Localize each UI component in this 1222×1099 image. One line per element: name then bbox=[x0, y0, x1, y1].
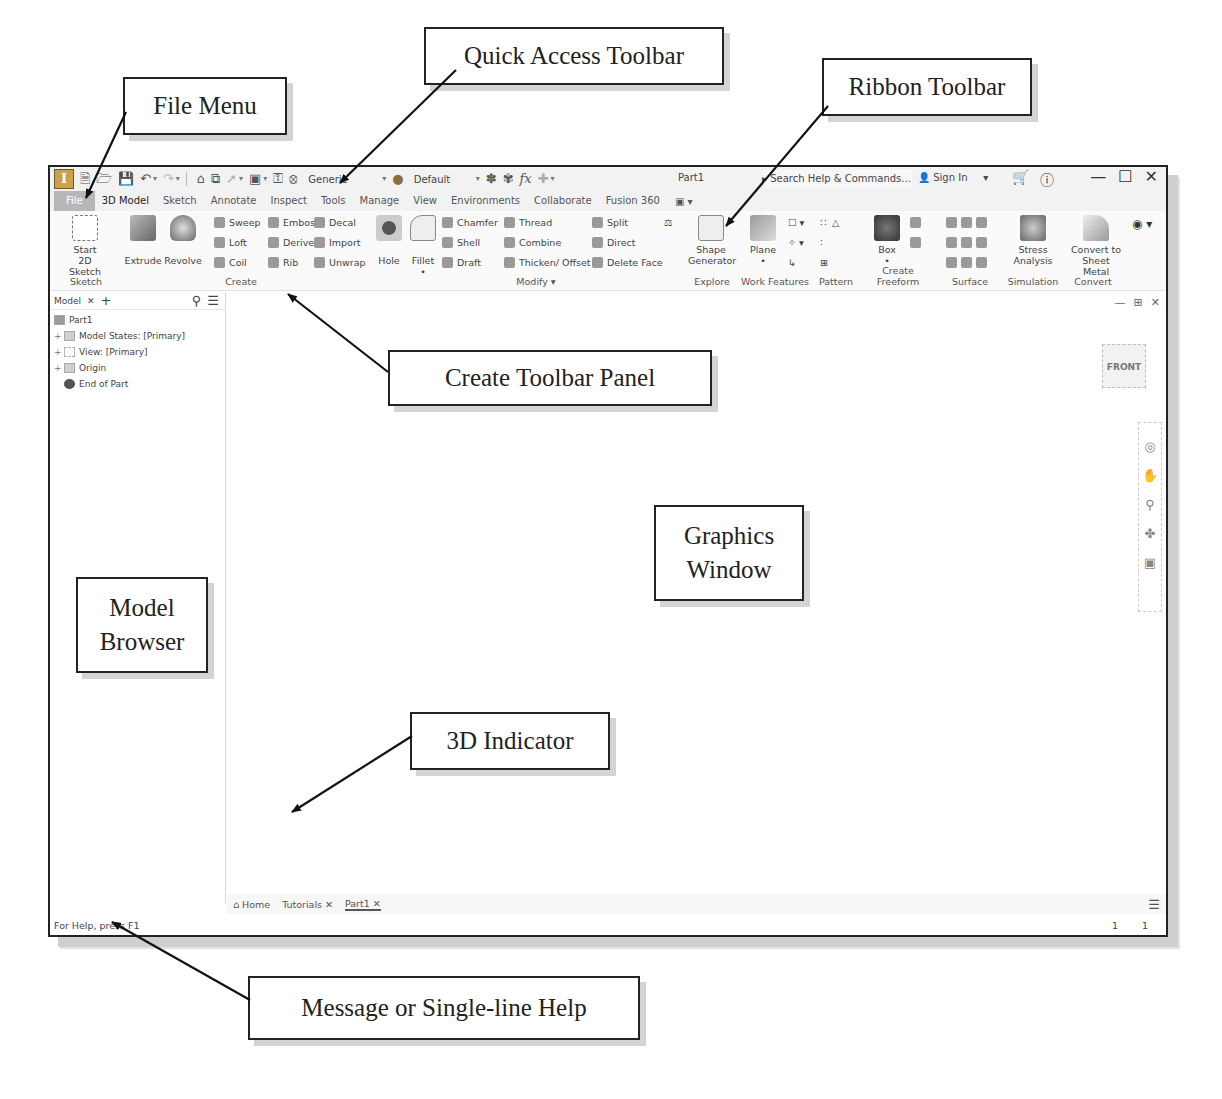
expand-icon[interactable]: + bbox=[54, 363, 64, 373]
tab-view[interactable]: View bbox=[406, 191, 444, 211]
fillet-button[interactable]: Fillet• bbox=[400, 215, 446, 277]
tab-tools[interactable]: Tools bbox=[314, 191, 353, 211]
steering-wheel-icon[interactable]: ◎ bbox=[1144, 439, 1155, 454]
help-icon[interactable]: ⓘ bbox=[1040, 169, 1054, 189]
material-chevron-icon[interactable]: ▾ bbox=[382, 169, 386, 189]
tab-sketch[interactable]: Sketch bbox=[156, 191, 204, 211]
projects-icon[interactable]: ⧉ bbox=[211, 169, 220, 189]
customize-qat-icon[interactable]: ▾ bbox=[551, 169, 555, 189]
freeform-face-button[interactable] bbox=[910, 217, 925, 228]
freeform-convert-button[interactable] bbox=[910, 237, 925, 248]
add-icon[interactable]: ✚ bbox=[538, 169, 549, 189]
modify-panel-title[interactable]: Modify ▾ bbox=[506, 276, 566, 287]
doc-tab-home[interactable]: ⌂ Home bbox=[233, 899, 270, 910]
mirror-icon[interactable]: △ bbox=[832, 217, 839, 228]
decal-button[interactable]: Decal bbox=[314, 217, 356, 228]
revolve-button[interactable]: Revolve bbox=[160, 215, 206, 266]
tree-node-model-states[interactable]: +Model States: [Primary] bbox=[50, 328, 225, 344]
sweep-button[interactable]: Sweep bbox=[214, 217, 261, 228]
clear-appearance-icon[interactable]: ✽ bbox=[486, 169, 497, 189]
doc-tab-tutorials[interactable]: Tutorials ✕ bbox=[282, 899, 333, 910]
material-icon[interactable]: ⦻ bbox=[289, 169, 298, 189]
thicken-offset-button[interactable]: Thicken/ Offset bbox=[504, 257, 590, 268]
appearance-icon[interactable]: ● bbox=[392, 169, 403, 189]
view-face-icon[interactable]: ▣ bbox=[1144, 555, 1156, 570]
tree-node-view[interactable]: +View: [Primary] bbox=[50, 344, 225, 360]
surface-row-1[interactable] bbox=[946, 217, 991, 228]
convert-sheet-metal-button[interactable]: Convert to Sheet Metal bbox=[1068, 215, 1124, 277]
ribbon-display-icon[interactable]: ▣ ▾ bbox=[675, 196, 693, 207]
expand-icon[interactable]: + bbox=[54, 331, 64, 341]
close-browser-tab-icon[interactable]: ✕ bbox=[87, 296, 95, 306]
update-icon[interactable]: ▣ bbox=[249, 169, 261, 189]
minimize-icon[interactable]: — bbox=[1090, 167, 1106, 186]
select-icon[interactable]: ➚ bbox=[226, 169, 237, 189]
shape-generator-button[interactable]: Shape Generator bbox=[688, 215, 734, 266]
restore-icon[interactable]: ⊞ bbox=[1134, 296, 1143, 309]
sketch-pattern-button[interactable]: ⊞ bbox=[820, 257, 828, 268]
plane-button[interactable]: Plane• bbox=[740, 215, 786, 266]
material-dropdown[interactable]: Generic bbox=[308, 174, 380, 185]
delete-face-button[interactable]: Delete Face bbox=[592, 257, 663, 268]
loft-button[interactable]: Loft bbox=[214, 237, 247, 248]
rib-button[interactable]: Rib bbox=[268, 257, 298, 268]
tab-collaborate[interactable]: Collaborate bbox=[527, 191, 599, 211]
direct-button[interactable]: Direct bbox=[592, 237, 635, 248]
unwrap-button[interactable]: Unwrap bbox=[314, 257, 366, 268]
tab-3d-model[interactable]: 3D Model bbox=[95, 191, 156, 211]
close-tab-icon[interactable]: ✕ bbox=[373, 898, 381, 909]
close-tab-icon[interactable]: ✕ bbox=[325, 899, 333, 910]
surface-row-3[interactable] bbox=[946, 257, 991, 268]
coil-button[interactable]: Coil bbox=[214, 257, 247, 268]
update-dropdown-icon[interactable]: ▾ bbox=[263, 169, 267, 189]
pan-icon[interactable]: ✋ bbox=[1142, 468, 1158, 483]
stamp-button[interactable]: ⚖ bbox=[664, 217, 673, 228]
start-2d-sketch-button[interactable]: Start 2D Sketch bbox=[62, 215, 108, 277]
browser-tab-model[interactable]: Model bbox=[54, 296, 81, 306]
orbit-icon[interactable]: ✤ bbox=[1145, 526, 1156, 541]
close-icon[interactable]: ✕ bbox=[1145, 167, 1158, 186]
new-icon[interactable]: 🗎 bbox=[80, 169, 90, 189]
cart-icon[interactable]: 🛒 bbox=[1012, 169, 1029, 185]
tab-annotate[interactable]: Annotate bbox=[204, 191, 264, 211]
undo-dropdown-icon[interactable]: ▾ bbox=[153, 169, 157, 189]
derive-button[interactable]: Derive bbox=[268, 237, 314, 248]
parameters-icon[interactable]: fx bbox=[520, 169, 532, 189]
shell-button[interactable]: Shell bbox=[442, 237, 480, 248]
import-button[interactable]: Import bbox=[314, 237, 361, 248]
chamfer-button[interactable]: Chamfer bbox=[442, 217, 498, 228]
home-icon[interactable]: ⌂ bbox=[197, 169, 205, 189]
sign-in-button[interactable]: 👤 Sign In ▾ bbox=[918, 172, 988, 183]
tab-environments[interactable]: Environments bbox=[444, 191, 527, 211]
draft-button[interactable]: Draft bbox=[442, 257, 481, 268]
minimize-icon[interactable]: — bbox=[1115, 296, 1126, 309]
tree-node-part1[interactable]: Part1 bbox=[50, 312, 225, 328]
tab-file[interactable]: File bbox=[54, 191, 95, 211]
tree-node-origin[interactable]: +Origin bbox=[50, 360, 225, 376]
save-icon[interactable]: 💾 bbox=[118, 169, 134, 189]
hamburger-menu-icon[interactable]: ☰ bbox=[207, 293, 219, 308]
open-icon[interactable]: 🗁 bbox=[96, 169, 112, 189]
combine-button[interactable]: Combine bbox=[504, 237, 561, 248]
axis-button[interactable]: ☐ ▾ bbox=[788, 217, 804, 228]
tab-inspect[interactable]: Inspect bbox=[263, 191, 313, 211]
measure-icon[interactable]: ⚿ bbox=[273, 169, 283, 189]
viewcube[interactable]: FRONT bbox=[1102, 344, 1146, 388]
doc-tab-part1[interactable]: Part1 ✕ bbox=[345, 898, 381, 911]
rectangular-pattern-button[interactable]: ∷ △ bbox=[820, 217, 839, 228]
search-icon[interactable]: ⚲ bbox=[192, 293, 202, 308]
surface-row-2[interactable] bbox=[946, 237, 991, 248]
help-search-input[interactable]: ▸ Search Help & Commands... bbox=[762, 170, 912, 188]
redo-icon[interactable]: ↷ bbox=[163, 169, 174, 189]
tabs-menu-icon[interactable]: ☰ bbox=[1148, 897, 1160, 912]
tree-node-end-of-part[interactable]: End of Part bbox=[50, 376, 225, 392]
tab-fusion-360[interactable]: Fusion 360 bbox=[599, 191, 667, 211]
close-icon[interactable]: ✕ bbox=[1151, 296, 1160, 309]
select-dropdown-icon[interactable]: ▾ bbox=[239, 169, 243, 189]
box-button[interactable]: Box• bbox=[864, 215, 910, 266]
zoom-icon[interactable]: ⚲ bbox=[1145, 497, 1155, 512]
adjust-icon[interactable]: ✾ bbox=[503, 169, 514, 189]
thread-button[interactable]: Thread bbox=[504, 217, 552, 228]
maximize-icon[interactable]: ☐ bbox=[1118, 167, 1132, 186]
ucs-button[interactable]: ↳ bbox=[788, 257, 796, 268]
